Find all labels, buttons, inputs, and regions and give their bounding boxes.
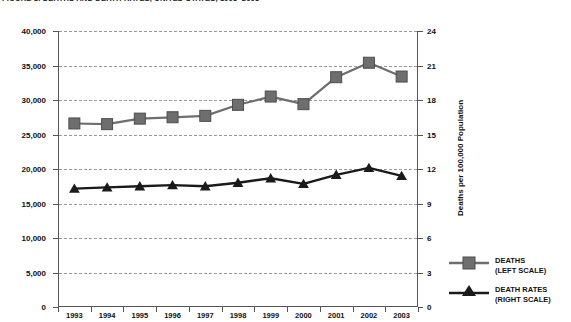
y-axis-right-tick: 12 [427,165,457,174]
x-axis-tickmark [320,307,321,312]
gridline [59,169,417,170]
y-axis-left-tickmark [53,100,58,101]
y-axis-right-tickmark [418,238,423,239]
x-axis-tick: 2001 [319,311,353,320]
x-axis-tick: 1996 [156,311,190,320]
plot-area [58,31,418,307]
page-title: FIGURE 1. DEATHS AND DEATH RATES, UNITED… [2,0,259,3]
legend-item-death-rates[interactable]: DEATH RATES (RIGHT SCALE) [449,284,569,304]
y-axis-left-tick: 35,000 [0,61,46,70]
y-axis-left-tick: 5,000 [0,268,46,277]
legend-label-deaths-line2: (LEFT SCALE) [495,266,546,275]
y-axis-right-tickmark [418,204,423,205]
y-axis-left-tickmark [53,66,58,67]
x-axis-tick: 2003 [385,311,419,320]
legend-label-deaths-line1: DEATHS [495,256,525,265]
x-axis-tickmark [418,307,419,312]
x-axis-tickmark [58,307,59,312]
y-axis-right-tick: 9 [427,199,457,208]
y-axis-right-tickmark [418,135,423,136]
gridline [59,31,417,32]
y-axis-right-label: Deaths per 100,000 Population [456,100,465,216]
x-axis-tickmark [123,307,124,312]
x-axis-tick: 2000 [286,311,320,320]
y-axis-left-tick: 30,000 [0,96,46,105]
gridline [59,273,417,274]
x-axis-tick: 1997 [188,311,222,320]
y-axis-right-tick: 15 [427,130,457,139]
y-axis-left-tick: 15,000 [0,199,46,208]
gridline [59,238,417,239]
y-axis-right-tick: 21 [427,61,457,70]
legend-item-deaths[interactable]: DEATHS (LEFT SCALE) [449,255,569,275]
y-axis-right-tick: 18 [427,96,457,105]
x-axis-tickmark [222,307,223,312]
y-axis-left-tickmark [53,204,58,205]
y-axis-right-tickmark [418,100,423,101]
x-axis-tickmark [91,307,92,312]
gridline [59,204,417,205]
y-axis-left-tick: 40,000 [0,27,46,36]
x-axis-tick: 1994 [90,311,124,320]
x-axis-tick: 2002 [352,311,386,320]
y-axis-left-tick: 25,000 [0,130,46,139]
chart-legend: DEATHS (LEFT SCALE) DEATH RATES (RIGHT S… [449,255,569,313]
y-axis-left-tickmark [53,135,58,136]
x-axis-tickmark [156,307,157,312]
y-axis-right-tick: 6 [427,234,457,243]
y-axis-left-tickmark [53,169,58,170]
square-marker [449,255,489,271]
legend-label-rates-line2: (RIGHT SCALE) [495,295,551,304]
x-axis-tick: 1993 [57,311,91,320]
y-axis-right-tickmark [418,31,423,32]
x-axis-tick: 1995 [123,311,157,320]
legend-label-death-rates: DEATH RATES (RIGHT SCALE) [495,284,551,304]
legend-label-deaths: DEATHS (LEFT SCALE) [495,255,546,275]
x-axis-tickmark [189,307,190,312]
x-axis-tickmark [353,307,354,312]
y-axis-left-tick: 10,000 [0,234,46,243]
gridline [59,66,417,67]
legend-label-rates-line1: DEATH RATES [495,285,547,294]
x-axis-tickmark [287,307,288,312]
y-axis-right-tick: 24 [427,27,457,36]
x-axis-tickmark [385,307,386,312]
gridline [59,100,417,101]
triangle-marker [449,284,489,300]
y-axis-left-tick: 20,000 [0,165,46,174]
y-axis-left-tickmark [53,31,58,32]
y-axis-left-tickmark [53,273,58,274]
x-axis-tick: 1999 [254,311,288,320]
y-axis-right-tickmark [418,169,423,170]
x-axis-tick: 1998 [221,311,255,320]
y-axis-right-tickmark [418,66,423,67]
x-axis-tickmark [254,307,255,312]
gridline [59,135,417,136]
y-axis-right-tickmark [418,273,423,274]
y-axis-left-tick: 0 [0,303,46,312]
y-axis-left-tickmark [53,238,58,239]
